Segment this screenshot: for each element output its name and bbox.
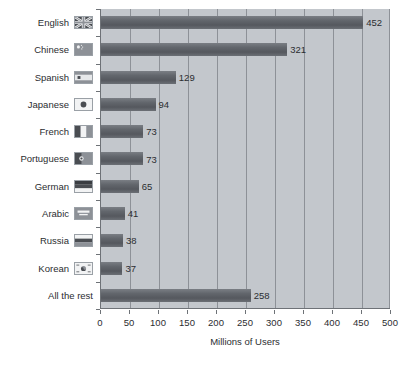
x-axis-tick — [158, 310, 159, 314]
bar[interactable] — [101, 43, 287, 56]
x-axis-tick — [100, 310, 101, 314]
x-axis-tick — [303, 310, 304, 314]
flag-arabic-icon — [74, 207, 93, 220]
plot-area — [100, 9, 390, 309]
y-axis-label-text: All the rest — [48, 290, 93, 301]
bar-row — [101, 254, 390, 281]
bar-value-label: 258 — [254, 289, 270, 302]
y-axis-label-text: Russia — [40, 235, 69, 246]
bar-value-label: 321 — [290, 43, 306, 56]
y-axis-label-text: Spanish — [35, 72, 69, 83]
x-axis-tick — [390, 310, 391, 314]
bar-value-label: 129 — [179, 71, 195, 84]
y-axis-label-row: English — [0, 9, 100, 36]
y-axis-label-text: German — [35, 181, 69, 192]
bar-value-label: 94 — [159, 98, 170, 111]
bar-row — [101, 36, 390, 63]
y-axis-label-text: English — [38, 17, 69, 28]
flag-spain-icon — [74, 71, 93, 84]
bar-row — [101, 200, 390, 227]
bar-value-label: 38 — [126, 234, 137, 247]
y-axis-label-row: Spanish — [0, 64, 100, 91]
bar-value-label: 37 — [125, 262, 136, 275]
bar[interactable] — [101, 152, 143, 165]
bar[interactable] — [101, 71, 176, 84]
y-axis-label-row: Russia — [0, 227, 100, 254]
bar-value-label: 41 — [128, 207, 139, 220]
bar[interactable] — [101, 207, 125, 220]
bar-row — [101, 91, 390, 118]
bar[interactable] — [101, 125, 143, 138]
y-axis-label-text: Japanese — [28, 99, 69, 110]
flag-united-kingdom-icon — [74, 16, 93, 29]
x-axis-tick — [274, 310, 275, 314]
x-axis-tick — [332, 310, 333, 314]
bar-value-label: 73 — [146, 153, 157, 166]
bar-row — [101, 227, 390, 254]
y-axis-label-text: Portuguese — [20, 153, 69, 164]
bar[interactable] — [101, 180, 139, 193]
flag-china-icon — [74, 43, 93, 56]
flag-russia-icon — [74, 234, 93, 247]
bar[interactable] — [101, 16, 363, 29]
y-axis-label-row: French — [0, 118, 100, 145]
bar[interactable] — [101, 262, 122, 275]
y-axis-label-text: Korean — [38, 263, 69, 274]
x-axis-tick — [187, 310, 188, 314]
flag-south-korea-icon — [74, 262, 93, 275]
bar-row — [101, 9, 390, 36]
y-axis-label-row: Portuguese — [0, 145, 100, 172]
y-axis-label-text: Arabic — [42, 208, 69, 219]
y-axis-label-text: Chinese — [34, 44, 69, 55]
bar-chart: English Chinese Spanish Japanese — [0, 0, 412, 366]
plot-inner — [101, 9, 390, 308]
bar-value-label: 65 — [142, 180, 153, 193]
flag-germany-icon — [74, 180, 93, 193]
y-axis-label-row: All the rest — [0, 282, 100, 309]
flag-france-icon — [74, 125, 93, 138]
bar[interactable] — [101, 98, 156, 111]
x-axis-tick — [245, 310, 246, 314]
y-axis-label-row: Korean — [0, 254, 100, 281]
y-axis-label-row: Japanese — [0, 91, 100, 118]
bar-row — [101, 145, 390, 172]
x-axis-tick — [361, 310, 362, 314]
x-axis-tick — [216, 310, 217, 314]
bar-value-label: 73 — [146, 125, 157, 138]
bar[interactable] — [101, 234, 123, 247]
bar-row — [101, 118, 390, 145]
bar-row — [101, 64, 390, 91]
y-axis-label-row: Arabic — [0, 200, 100, 227]
y-axis-label-row: German — [0, 173, 100, 200]
x-axis-tick — [129, 310, 130, 314]
flag-portugal-icon — [74, 152, 93, 165]
flag-japan-icon — [74, 98, 93, 111]
y-axis-label-text: French — [39, 126, 69, 137]
bar[interactable] — [101, 289, 251, 302]
x-axis-tick-label: 500 — [370, 317, 410, 328]
bar-value-label: 452 — [366, 16, 382, 29]
x-axis-title: Millions of Users — [100, 336, 390, 347]
y-axis-label-row: Chinese — [0, 36, 100, 63]
bar-row — [101, 282, 390, 309]
